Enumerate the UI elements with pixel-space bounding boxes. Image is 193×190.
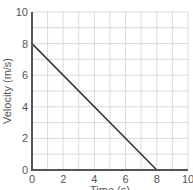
- y-tick-label: 0: [22, 164, 28, 176]
- x-axis-label: Time (s): [90, 184, 130, 190]
- y-axis-ticks: 0246810: [16, 6, 28, 176]
- x-tick-label: 0: [29, 173, 35, 185]
- y-tick-label: 4: [22, 101, 28, 113]
- y-tick-label: 2: [22, 132, 28, 144]
- x-tick-label: 8: [154, 173, 160, 185]
- grid-lines: [32, 12, 188, 170]
- x-tick-label: 10: [182, 173, 193, 185]
- velocity-time-chart: 0246810 0246810 Time (s) Velocity (m/s): [0, 0, 193, 190]
- x-tick-label: 2: [60, 173, 66, 185]
- y-tick-label: 10: [16, 6, 28, 18]
- y-tick-label: 6: [22, 69, 28, 81]
- y-tick-label: 8: [22, 38, 28, 50]
- y-axis-label: Velocity (m/s): [1, 58, 13, 124]
